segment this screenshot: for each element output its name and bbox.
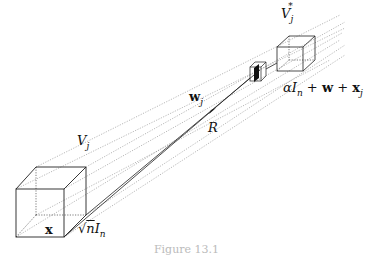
projection-rays	[16, 15, 345, 237]
small-cube	[266, 36, 315, 71]
tube-lines	[64, 70, 260, 237]
tiny-cube	[250, 62, 266, 82]
label-x: x	[45, 223, 53, 236]
label-alpha-expr: αIn + w + xj	[283, 81, 363, 98]
label-sqrt-n-in: √nIn	[78, 222, 106, 239]
r-arrow-icon	[209, 108, 216, 114]
label-v-j: Vj	[77, 134, 89, 151]
label-w-j: wj	[189, 90, 203, 107]
label-v-j-star: Vj*	[281, 6, 298, 24]
label-r: R	[208, 121, 218, 134]
figure-caption: Figure 13.1	[0, 243, 373, 256]
